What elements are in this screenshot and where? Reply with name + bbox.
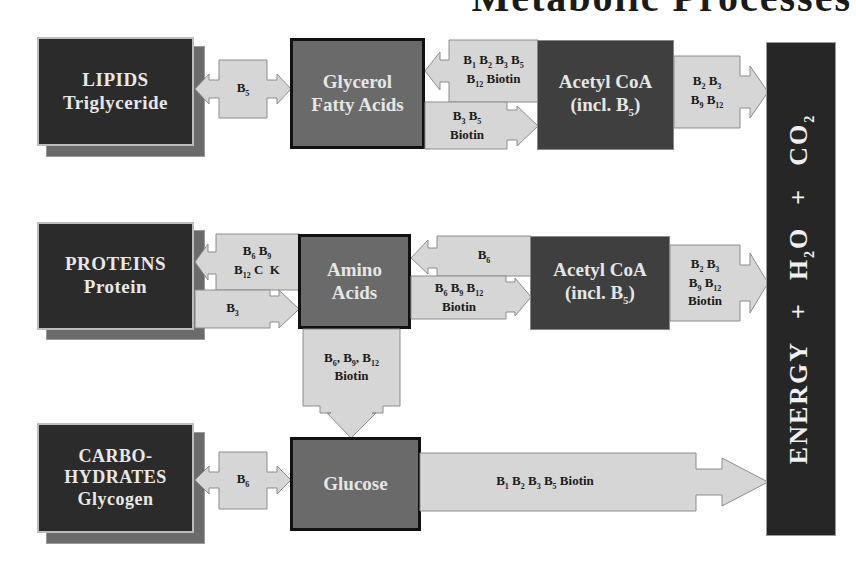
lipids-back-arrow: B1 B2 B3 B5 B12 Biotin [425, 40, 538, 102]
proteins-forward-arrow: B3 [195, 290, 299, 328]
amino-label: Amino [327, 259, 382, 282]
energy-products-text: ENERGY+H2O+CO2 [784, 114, 817, 464]
acetyl-coa-note: (incl. B5) [571, 94, 641, 119]
proteins-to-energy-arrow: B2 B3 B9 B12 Biotin [670, 245, 768, 321]
proteins-subtitle: Protein [84, 276, 147, 299]
vitamin-label: Biotin [335, 368, 369, 384]
acetyl-coa-box-lipids: Acetyl CoA (incl. B5) [537, 40, 674, 150]
glucose-box: Glucose [290, 437, 421, 531]
vitamin-label: B9 B12 [691, 92, 724, 111]
glucose-label: Glucose [323, 473, 387, 496]
carbohydrates-source-box: CARBO- HYDRATES Glycogen [37, 423, 194, 533]
proteins-title: PROTEINS [65, 253, 166, 276]
carbo-title-1: CARBO- [79, 446, 153, 468]
energy-products-bar: ENERGY+H2O+CO2 [766, 42, 836, 536]
acids-label: Acids [332, 282, 377, 305]
lipids-title: LIPIDS [82, 69, 148, 92]
acetyl-coa-box-proteins: Acetyl CoA (incl. B5) [530, 236, 670, 330]
vitamin-label: B6 B9 B12 [435, 280, 484, 299]
vitamin-label: B6 [237, 471, 250, 490]
vitamin-label: B1 B2 B3 B5 [463, 52, 523, 71]
glucose-to-energy-arrow: B1 B2 B3 B5 Biotin [420, 453, 768, 511]
glycerol-label: Glycerol [323, 71, 392, 94]
carbohydrates-b6-double-arrow: B6 [195, 452, 291, 509]
vitamin-label: Biotin [450, 127, 484, 143]
vitamin-label: B2 B3 [693, 73, 722, 92]
vitamin-label: B12 Biotin [467, 71, 521, 90]
lipids-to-energy-arrow: B2 B3 B9 B12 [674, 56, 768, 128]
acetyl-coa-label: Acetyl CoA [559, 71, 652, 94]
vitamin-label: B9 B12 [689, 275, 722, 294]
amino-to-glucose-down-arrow: B6, B9, B12 Biotin [303, 329, 400, 438]
energy-label: ENERGY [784, 341, 813, 464]
amino-acids-box: Amino Acids [298, 234, 411, 329]
plus-sign: + [784, 188, 813, 205]
acetyl-coa-label: Acetyl CoA [553, 259, 646, 282]
fatty-acids-label: Fatty Acids [311, 94, 403, 117]
vitamin-label: Biotin [442, 299, 476, 315]
vitamin-label: B2 B3 [691, 256, 720, 275]
lipids-b5-double-arrow: B5 [195, 60, 291, 118]
vitamin-label: B6 [478, 247, 491, 266]
diagram-title: Metabolic Processes [0, 0, 856, 14]
vitamin-label: B1 B2 B3 B5 Biotin [496, 473, 594, 492]
carbo-title-2: HYDRATES [64, 467, 167, 489]
vitamin-label: B3 B5 [453, 108, 482, 127]
water-label: H2O [784, 227, 813, 280]
co2-label: CO2 [784, 114, 813, 166]
vitamin-label: B5 [237, 80, 250, 99]
vitamin-label: B6 B9 [243, 243, 272, 262]
proteins-back-arrow: B6 B9 B12 C K [195, 234, 299, 290]
vitamin-label: B6, B9, B12 [324, 350, 379, 369]
vitamin-label: Biotin [688, 293, 722, 309]
vitamin-label: B12 C K [234, 262, 280, 281]
proteins-source-box: PROTEINS Protein [37, 222, 194, 330]
plus-sign: + [784, 302, 813, 319]
acetyl-coa-note: (incl. B5) [565, 282, 635, 307]
proteins-from-acetyl-arrow: B6 [411, 236, 531, 276]
proteins-to-acetyl-arrow: B6 B9 B12 Biotin [411, 276, 531, 319]
carbo-subtitle: Glycogen [78, 489, 154, 511]
lipids-source-box: LIPIDS Triglyceride [37, 37, 194, 146]
glycerol-fatty-acids-box: Glycerol Fatty Acids [290, 38, 425, 149]
lipids-subtitle: Triglyceride [63, 92, 168, 115]
vitamin-label: B3 [226, 300, 239, 319]
lipids-forward-arrow: B3 B5 Biotin [425, 102, 538, 149]
